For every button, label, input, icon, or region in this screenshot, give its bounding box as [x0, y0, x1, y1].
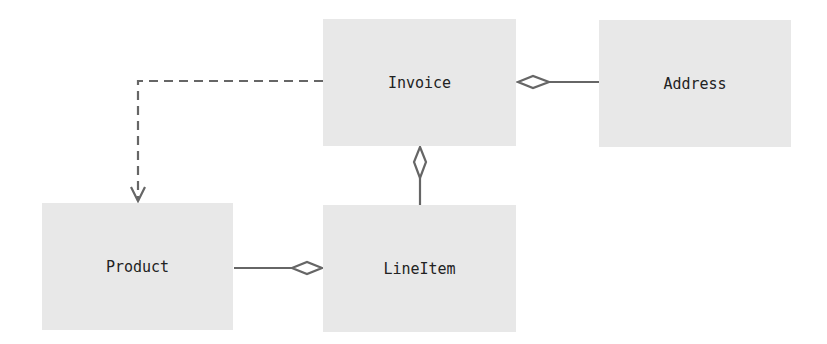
hollow-diamond-icon — [518, 76, 549, 88]
class-label: Invoice — [388, 74, 451, 92]
class-label: LineItem — [383, 260, 455, 278]
aggregation-invoice-address — [518, 76, 599, 88]
hollow-diamond-icon — [292, 262, 322, 274]
hollow-diamond-icon — [414, 147, 426, 178]
class-label: Address — [663, 75, 726, 93]
class-label: Product — [106, 258, 169, 276]
class-box-invoice[interactable]: Invoice — [323, 19, 516, 146]
class-box-product[interactable]: Product — [42, 203, 233, 330]
uml-class-diagram: Invoice Address Product LineItem — [0, 0, 827, 344]
class-box-address[interactable]: Address — [599, 20, 791, 147]
class-box-lineitem[interactable]: LineItem — [323, 205, 516, 332]
dependency-invoice-product — [131, 81, 323, 201]
aggregation-invoice-lineitem — [414, 147, 426, 205]
aggregation-lineitem-product — [234, 262, 322, 274]
